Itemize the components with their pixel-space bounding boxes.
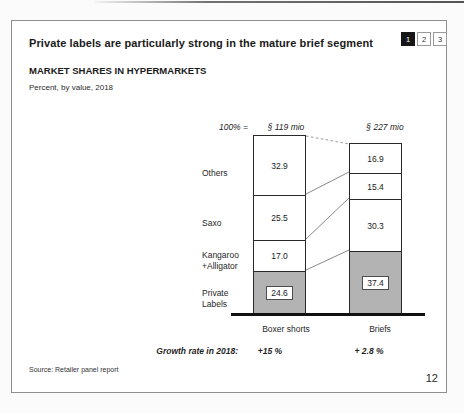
category-label-briefs: Briefs xyxy=(340,324,420,334)
segment-value: 30.3 xyxy=(367,221,384,231)
scanned-page-top-edge xyxy=(95,1,464,3)
segment-briefs-private-labels: 37.4 xyxy=(350,251,401,314)
page-tab-3[interactable]: 3 xyxy=(433,32,447,46)
segment-boxer-saxo: 25.5 xyxy=(254,195,305,240)
segment-value-box: 37.4 xyxy=(362,276,389,290)
growth-rate-briefs: + 2.8 % xyxy=(338,346,400,356)
stacked-bar-boxer-shorts: 32.9 25.5 17.0 24.6 xyxy=(253,135,306,315)
page-tab-2[interactable]: 2 xyxy=(417,32,431,46)
segment-boxer-private-labels: 24.6 xyxy=(254,271,305,314)
page-number: 12 xyxy=(400,372,438,384)
segment-value: 17.0 xyxy=(271,251,288,261)
page-tab-strip: 1 2 3 xyxy=(399,32,447,46)
percent-equals-label: 100% = xyxy=(182,122,248,132)
source-note: Source: Retailer panel report xyxy=(29,366,119,373)
segment-value: 25.5 xyxy=(271,213,288,223)
chart-unit-note: Percent, by value, 2018 xyxy=(29,83,113,92)
segment-boxer-others: 32.9 xyxy=(254,136,305,195)
segment-boxer-kangaroo-alligator: 17.0 xyxy=(254,240,305,271)
segment-briefs-kangaroo-alligator: 30.3 xyxy=(350,199,401,251)
segment-value: 16.9 xyxy=(367,154,384,164)
segment-value: 15.4 xyxy=(367,182,384,192)
row-label-others: Others xyxy=(202,168,228,179)
growth-rate-boxer-shorts: +15 % xyxy=(239,346,301,356)
total-boxer-shorts: § 119 mio xyxy=(255,122,317,132)
stacked-bar-briefs: 16.9 15.4 30.3 37.4 xyxy=(349,143,402,315)
slide-frame: Private labels are particularly strong i… xyxy=(11,20,447,393)
x-axis-baseline xyxy=(231,313,425,316)
row-label-kangaroo-alligator: Kangaroo +Alligator xyxy=(202,250,239,272)
segment-value: 32.9 xyxy=(271,161,288,171)
segment-briefs-others: 16.9 xyxy=(350,144,401,173)
segment-value-box: 24.6 xyxy=(266,286,293,300)
row-label-private-labels: Private Labels xyxy=(202,288,228,310)
segment-briefs-saxo: 15.4 xyxy=(350,173,401,199)
slide-title: Private labels are particularly strong i… xyxy=(29,37,373,49)
row-label-saxo: Saxo xyxy=(202,218,221,229)
growth-rate-label: Growth rate in 2018: xyxy=(108,346,238,356)
total-briefs: § 227 mio xyxy=(354,122,416,132)
category-label-boxer-shorts: Boxer shorts xyxy=(246,324,326,334)
chart-heading: MARKET SHARES IN HYPERMARKETS xyxy=(29,65,206,76)
page-tab-1[interactable]: 1 xyxy=(401,32,415,46)
